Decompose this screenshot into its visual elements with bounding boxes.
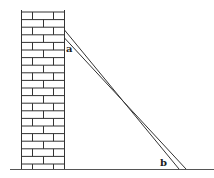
- brick-wall: [22, 10, 65, 169]
- ladder-wall-diagram: a b: [0, 0, 214, 178]
- label-b: b: [160, 157, 167, 168]
- ladder: [65, 30, 187, 169]
- label-a: a: [66, 43, 73, 54]
